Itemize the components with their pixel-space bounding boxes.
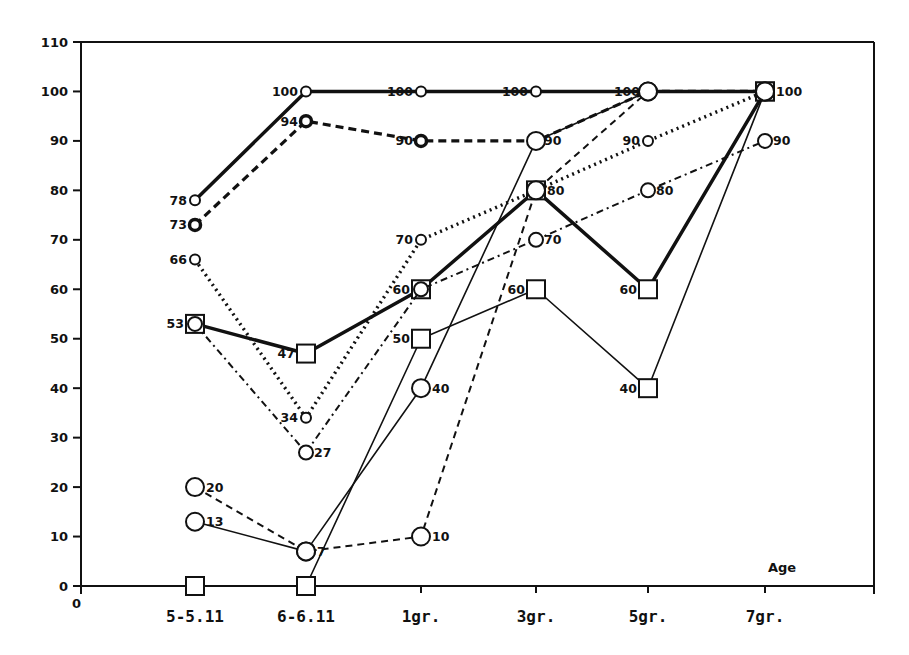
- x-tick-label: 6-6.11: [277, 607, 335, 626]
- circle-marker: [527, 132, 545, 150]
- data-label: 94: [281, 114, 299, 129]
- y-tick-label: 110: [41, 35, 68, 50]
- series-line: [195, 91, 765, 551]
- data-label: 47: [278, 346, 295, 361]
- data-label: 50: [393, 331, 411, 346]
- data-label: 100: [387, 84, 413, 99]
- line-chart: 01020304050607080901001105-5.116-6.111gr…: [0, 0, 909, 655]
- square-marker: [639, 280, 657, 298]
- circle-marker: [529, 233, 543, 247]
- y-tick-label: 40: [50, 381, 68, 396]
- data-label: 100: [272, 84, 298, 99]
- x-tick-label: 5gr.: [629, 607, 668, 626]
- data-label: 60: [620, 282, 638, 297]
- circle-marker: [188, 317, 202, 331]
- data-label: 70: [396, 232, 414, 247]
- circle-marker: [412, 528, 430, 546]
- data-label: 90: [623, 133, 641, 148]
- series-1: [190, 86, 770, 205]
- data-label: 20: [206, 480, 224, 495]
- series-6: [186, 82, 774, 595]
- series-line: [195, 91, 765, 586]
- data-label: 100: [776, 84, 802, 99]
- x-origin-label: 0: [72, 596, 81, 611]
- data-label: 66: [170, 252, 188, 267]
- y-tick-label: 20: [50, 480, 68, 495]
- series-3: [190, 86, 770, 422]
- data-label: 90: [396, 133, 414, 148]
- circle-marker: [412, 379, 430, 397]
- series-7: [186, 82, 774, 560]
- data-label: 10: [432, 529, 450, 544]
- series-line: [195, 91, 765, 551]
- y-tick-label: 100: [41, 84, 68, 99]
- x-tick-label: 5-5.11: [166, 607, 224, 626]
- y-tick-label: 70: [50, 232, 68, 247]
- circle-marker: [190, 255, 200, 265]
- circle-marker: [527, 181, 545, 199]
- circle-marker: [756, 82, 774, 100]
- series-line: [195, 91, 765, 200]
- series-2: [190, 86, 771, 231]
- circle-marker: [641, 183, 655, 197]
- data-label: 7: [317, 544, 326, 559]
- x-axis-title: Age: [768, 560, 796, 575]
- circle-marker: [643, 136, 653, 146]
- circle-marker: [301, 413, 311, 423]
- square-marker: [412, 330, 430, 348]
- circle-marker: [186, 513, 204, 531]
- series-8: [186, 82, 774, 560]
- data-label: 40: [620, 381, 638, 396]
- series-line: [195, 91, 765, 353]
- circle-marker: [190, 219, 201, 230]
- data-label: 100: [502, 84, 528, 99]
- data-label: 53: [167, 316, 184, 331]
- data-label: 40: [432, 381, 450, 396]
- data-label: 60: [508, 282, 526, 297]
- y-tick-label: 90: [50, 133, 68, 148]
- y-tick-label: 60: [50, 282, 68, 297]
- series-layer: [186, 82, 774, 595]
- x-tick-label: 3gr.: [517, 607, 556, 626]
- square-marker: [186, 577, 204, 595]
- circle-marker: [186, 478, 204, 496]
- point-labels: 7810010010010073949090663470905347608060…: [167, 84, 803, 559]
- y-tick-label: 30: [50, 430, 68, 445]
- circle-marker: [414, 282, 428, 296]
- circle-marker: [297, 542, 315, 560]
- circle-marker: [301, 86, 311, 96]
- data-label: 100: [614, 84, 640, 99]
- data-label: 34: [281, 410, 299, 425]
- circle-marker: [416, 135, 427, 146]
- x-tick-label: 7gr.: [746, 607, 785, 626]
- data-label: 90: [773, 133, 791, 148]
- circle-marker: [190, 195, 200, 205]
- y-tick-label: 0: [59, 579, 68, 594]
- data-label: 78: [170, 193, 187, 208]
- data-label: 80: [547, 183, 565, 198]
- y-tick-label: 80: [50, 183, 68, 198]
- circle-marker: [531, 86, 541, 96]
- circle-marker: [639, 82, 657, 100]
- square-marker: [297, 345, 315, 363]
- data-label: 13: [206, 514, 223, 529]
- data-label: 27: [314, 445, 331, 460]
- y-tick-label: 10: [50, 529, 68, 544]
- circle-marker: [301, 116, 312, 127]
- data-label: 73: [170, 217, 187, 232]
- data-label: 80: [656, 183, 674, 198]
- circle-marker: [416, 86, 426, 96]
- circle-marker: [299, 445, 313, 459]
- circle-marker: [416, 235, 426, 245]
- circle-marker: [758, 134, 772, 148]
- square-marker: [639, 379, 657, 397]
- square-marker: [297, 577, 315, 595]
- data-label: 70: [544, 232, 562, 247]
- data-label: 60: [393, 282, 411, 297]
- x-tick-label: 1gr.: [402, 607, 441, 626]
- series-line: [195, 141, 765, 453]
- square-marker: [527, 280, 545, 298]
- y-tick-label: 50: [50, 331, 68, 346]
- data-label: 90: [544, 133, 562, 148]
- series-line: [195, 91, 765, 225]
